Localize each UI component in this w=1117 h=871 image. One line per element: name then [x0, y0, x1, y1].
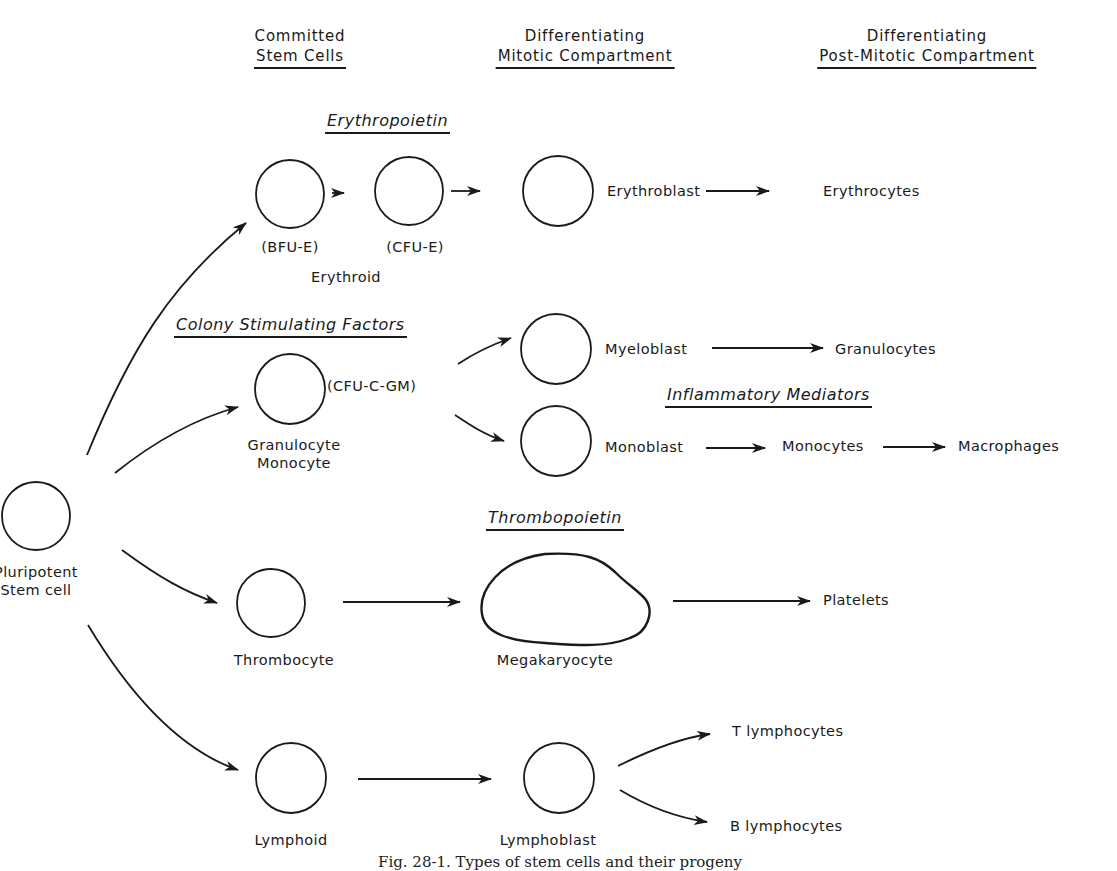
- header-line-2: Post-Mitotic Compartment: [817, 46, 1036, 69]
- arrow-to-b-lymphocytes: [620, 790, 707, 822]
- header-line-2: Mitotic Compartment: [496, 46, 675, 69]
- arrow-to-lymphoid: [88, 625, 238, 770]
- factor-inflammatory-mediators: Inflammatory Mediators: [665, 385, 872, 408]
- label-pluripotent: Pluripotent Stem cell: [0, 563, 78, 599]
- factor-thrombopoietin: Thrombopoietin: [486, 508, 624, 531]
- label-line-2: Monocyte: [248, 454, 341, 472]
- lymphoblast-cell: [524, 743, 594, 813]
- label-lymphoid: Lymphoid: [254, 831, 327, 849]
- arrow-to-thrombocyte: [122, 550, 217, 603]
- label-bfu-e: (BFU-E): [261, 238, 318, 256]
- label-t-lymphocytes: T lymphocytes: [732, 722, 843, 740]
- label-platelets: Platelets: [823, 591, 889, 609]
- label-erythrocytes: Erythrocytes: [823, 182, 920, 200]
- erythroblast-cell: [523, 156, 593, 226]
- header-line-1: Committed: [254, 26, 346, 46]
- label-line-2: Stem cell: [0, 581, 78, 599]
- monoblast-cell: [521, 406, 591, 476]
- megakaryocyte-cell: [482, 554, 650, 645]
- header-post-mitotic-compartment: Differentiating Post-Mitotic Compartment: [817, 26, 1036, 69]
- label-b-lymphocytes: B lymphocytes: [730, 817, 842, 835]
- arrow-to-monoblast: [455, 415, 504, 441]
- arrow-to-myeloblast: [458, 338, 511, 364]
- label-cfu-e: (CFU-E): [386, 238, 444, 256]
- label-macrophages: Macrophages: [958, 437, 1059, 455]
- cfu-e-cell: [375, 157, 443, 225]
- header-line-1: Differentiating: [817, 26, 1036, 46]
- pluripotent-cell: [2, 482, 70, 550]
- label-line-1: Granulocyte: [248, 436, 341, 454]
- myeloblast-cell: [521, 314, 591, 384]
- figure-caption: Fig. 28-1. Types of stem cells and their…: [378, 853, 742, 871]
- arrow-to-t-lymphocytes: [618, 734, 710, 766]
- arrow-to-erythroid: [87, 223, 246, 455]
- bfu-e-cell: [256, 160, 324, 228]
- factor-colony-stimulating: Colony Stimulating Factors: [174, 315, 407, 338]
- gran-mono-cell: [255, 354, 325, 424]
- label-monoblast: Monoblast: [605, 438, 683, 456]
- label-megakaryocyte: Megakaryocyte: [497, 651, 613, 669]
- label-granulocytes: Granulocytes: [835, 340, 936, 358]
- header-line-1: Differentiating: [496, 26, 675, 46]
- label-erythroid: Erythroid: [311, 268, 381, 286]
- lymphoid-cell: [256, 743, 326, 813]
- header-line-2: Stem Cells: [254, 46, 346, 69]
- label-granulocyte-monocyte: Granulocyte Monocyte: [248, 436, 341, 472]
- label-monocytes: Monocytes: [782, 437, 864, 455]
- factor-erythropoietin: Erythropoietin: [325, 111, 450, 134]
- thrombocyte-cell: [237, 569, 305, 637]
- label-lymphoblast: Lymphoblast: [500, 831, 596, 849]
- header-mitotic-compartment: Differentiating Mitotic Compartment: [496, 26, 675, 69]
- label-cfu-c-gm: (CFU-C-GM): [327, 377, 416, 395]
- label-line-1: Pluripotent: [0, 563, 78, 581]
- header-committed-stem-cells: Committed Stem Cells: [254, 26, 346, 69]
- label-myeloblast: Myeloblast: [605, 340, 687, 358]
- arrow-to-gran-mono: [115, 407, 238, 473]
- label-thrombocyte: Thrombocyte: [234, 651, 334, 669]
- label-erythroblast: Erythroblast: [607, 182, 700, 200]
